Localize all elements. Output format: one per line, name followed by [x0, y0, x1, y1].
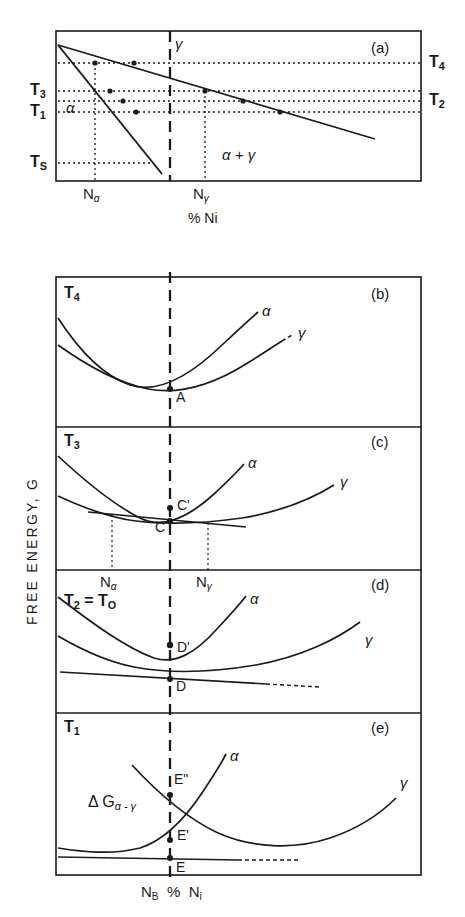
- panel-b-point-A: [167, 386, 173, 392]
- panel-e-point-E: [167, 855, 173, 861]
- x-axis-label: NB % Ni: [141, 884, 202, 902]
- panel-e-alpha-curve: [58, 754, 226, 852]
- panel-e-temperature-label: T1: [64, 719, 80, 737]
- panel-a-temp-t4-sub: 4: [439, 60, 445, 72]
- panel-d-tangent-dash: [266, 684, 320, 687]
- y-axis-label: FREE ENERGY, G: [24, 477, 40, 625]
- panel-a-temp-t1-label: T1: [30, 103, 46, 121]
- figure-line-art: [0, 0, 465, 917]
- panel-c-point-C-label: C: [155, 520, 165, 534]
- panel-b-tag: (b): [371, 286, 389, 301]
- panel-a-comp-n-alpha-sub: α: [94, 193, 100, 204]
- panel-c-comp-n-alpha-sub: α: [111, 581, 117, 592]
- panel-c-temperature-label: T3: [64, 433, 80, 451]
- panel-a-temp-t2-sub: 2: [439, 98, 445, 110]
- panel-d-point-D-label: D: [176, 679, 186, 693]
- panel-e-delta-g-subscript: α - γ: [115, 800, 136, 812]
- panel-e-point-Edprime-label: E": [174, 772, 188, 786]
- panel-d-gamma-curve-label: γ: [365, 632, 373, 647]
- panel-c-point-Cprime-label: C': [177, 498, 190, 512]
- panel-e-delta-g-symbol: Δ G: [88, 793, 115, 810]
- panel-e-point-Eprime: [167, 837, 173, 843]
- panel-a-temp-ts-label: TS: [30, 154, 47, 172]
- panel-a-comp-n-alpha-label: Nα: [83, 186, 100, 204]
- panel-b-temperature-sub: 4: [74, 291, 80, 303]
- panel-b-point-A-label: A: [176, 390, 185, 404]
- panel-c-alpha-curve-label: α: [248, 455, 257, 470]
- panel-d-temperature-sub: 2: [74, 599, 80, 611]
- panel-c-point-C: [167, 518, 173, 524]
- panel-e-point-Eprime-label: E': [177, 828, 189, 842]
- panel-b-alpha-curve: [58, 312, 258, 387]
- x-axis-ni-base: N: [189, 883, 200, 900]
- panel-b-gamma-curve-label: γ: [298, 325, 306, 340]
- panel-a-x-axis-caption: % Ni: [188, 211, 218, 225]
- panel-c-tag: (c): [371, 434, 389, 449]
- panel-d-point-Dprime: [167, 642, 173, 648]
- panel-d-temperature-label: T2 = TO: [64, 593, 116, 611]
- figure-root: (a) T3 T1 TS T4 T2 γ α α + γ Nα Nγ % Ni …: [0, 0, 465, 917]
- panel-a-tag: (a): [371, 40, 389, 55]
- x-axis-ni-sub: i: [200, 891, 202, 902]
- panel-a-comp-n-gamma-label: Nγ: [193, 186, 209, 204]
- x-axis-percent: %: [167, 883, 180, 900]
- panel-a-temp-t1-sub: 1: [40, 109, 46, 121]
- panel-a-temp-t3-sub: 3: [40, 88, 46, 100]
- panel-b-temperature-label: T4: [64, 285, 80, 303]
- panel-c-common-tangent: [88, 512, 246, 527]
- panel-d-alpha-curve-label: α: [250, 591, 259, 606]
- panel-c-comp-n-gamma-sub: γ: [207, 581, 212, 592]
- panel-e-point-Edprime: [167, 792, 173, 798]
- panel-c-temperature-sub: 3: [74, 439, 80, 451]
- panel-a-temp-ts-sub: S: [40, 160, 47, 172]
- panel-a-temp-t4-label: T4: [429, 54, 445, 72]
- panel-e-point-E-label: E: [176, 860, 185, 874]
- panel-e-delta-g-label: Δ Gα - γ: [88, 794, 136, 812]
- panel-c-comp-n-gamma-label: Nγ: [196, 574, 212, 592]
- panel-a-temp-t2-label: T2: [429, 92, 445, 110]
- panel-e-gamma-curve-label: γ: [400, 775, 408, 790]
- panel-a-gamma-region-label: γ: [175, 36, 183, 51]
- panel-e-tag: (e): [371, 720, 389, 735]
- panel-a-alpha-region-label: α: [66, 100, 75, 115]
- panel-e-gamma-curve: [132, 765, 396, 846]
- panel-d-equals-sign: =: [84, 592, 93, 609]
- panel-c-gamma-curve-label: γ: [340, 474, 348, 489]
- panel-c-comp-n-alpha-label: Nα: [100, 574, 117, 592]
- panel-a-percent-symbol: %: [188, 210, 200, 226]
- panel-a-two-phase-label: α + γ: [222, 147, 255, 162]
- panel-a-temp-t3-label: T3: [30, 82, 46, 100]
- x-axis-nb-sub: B: [152, 891, 159, 902]
- panel-d-tag: (d): [371, 577, 389, 592]
- panel-c-alpha-curve: [58, 456, 244, 522]
- panel-d-point-D: [167, 676, 173, 682]
- panel-a-element-symbol: Ni: [204, 210, 217, 226]
- panel-c-point-Cprime: [167, 505, 173, 511]
- panel-e-temperature-sub: 1: [74, 725, 80, 737]
- panel-a-tie-markers: [92, 60, 282, 114]
- x-axis-nb-base: N: [141, 883, 152, 900]
- panel-e-common-tangent: [58, 857, 238, 860]
- panel-b-alpha-curve-label: α: [262, 303, 271, 318]
- panel-a-comp-n-gamma-sub: γ: [204, 193, 209, 204]
- panel-e-alpha-curve-label: α: [230, 748, 239, 763]
- panel-d-temperature-eq-sub: O: [108, 599, 116, 611]
- panel-b-gamma-dash: [282, 334, 294, 341]
- panel-d-point-Dprime-label: D': [177, 640, 190, 654]
- panel-a-gamma-boundary: [58, 45, 375, 139]
- panel-d-common-tangent: [60, 672, 266, 684]
